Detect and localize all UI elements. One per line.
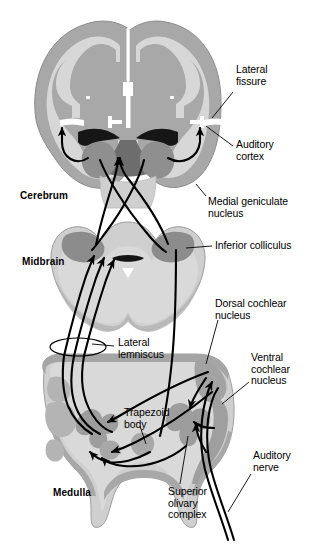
region-label-midbrain: Midbrain [22,256,64,268]
label-medial-geniculate-nucleus: Medial geniculate nucleus [208,196,288,219]
region-label-medulla: Medulla [53,487,91,499]
label-lateral-lemniscus: Lateral lemniscus [118,337,164,360]
label-trapezoid-body: Trapezoid body [124,407,169,430]
region-label-cerebrum: Cerebrum [20,190,68,202]
label-dorsal-cochlear-nucleus: Dorsal cochlear nucleus [215,298,286,321]
leader-lateral-lemniscus [92,344,114,346]
label-superior-olivary-complex: Superior olivary complex [168,486,207,521]
label-ventral-cochlear-nucleus: Ventral cochlear nucleus [251,352,290,387]
leader-medial-geniculate [196,184,206,196]
auditory-pathway-figure: Cerebrum Midbrain Medulla Lateral fissur… [0,0,312,548]
label-lateral-fissure: Lateral fissure [236,64,267,87]
label-auditory-nerve: Auditory nerve [253,450,291,473]
cerebrum-coronal-section [35,21,228,208]
label-auditory-cortex: Auditory cortex [236,139,274,162]
label-inferior-colliculus: Inferior colliculus [215,240,291,252]
leader-auditory-nerve [228,474,251,512]
